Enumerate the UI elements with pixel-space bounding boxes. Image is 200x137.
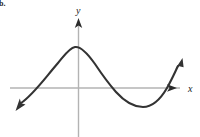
graph-plot-area: x y: [0, 0, 200, 137]
curve-right-arrow-icon: [176, 58, 184, 69]
y-axis-label: y: [75, 5, 81, 16]
x-axis-label: x: [187, 83, 193, 94]
sine-curve-path: [21, 47, 178, 107]
figure-container: b. x y: [0, 0, 200, 137]
